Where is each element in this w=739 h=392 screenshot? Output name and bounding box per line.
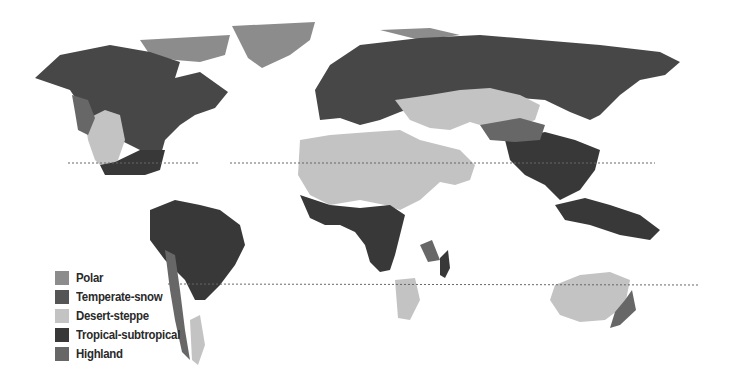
legend-swatch-desert-steppe [55,309,69,323]
legend-swatch-tropical-subtropical [55,328,69,342]
legend-swatch-highland [55,347,69,361]
legend-item-polar: Polar [55,268,194,287]
legend-item-desert-steppe: Desert-steppe [55,306,194,325]
legend-item-highland: Highland [55,344,194,363]
legend-label: Polar [76,270,103,285]
legend-label: Temperate-snow [76,289,162,304]
legend-item-temperate-snow: Temperate-snow [55,287,194,306]
map-legend: Polar Temperate-snow Desert-steppe Tropi… [55,268,194,363]
legend-item-tropical-subtropical: Tropical-subtropical [55,325,194,344]
legend-label: Desert-steppe [76,308,149,323]
legend-swatch-polar [55,271,69,285]
legend-label: Tropical-subtropical [76,327,180,342]
legend-label: Highland [76,346,123,361]
legend-swatch-temperate-snow [55,290,69,304]
